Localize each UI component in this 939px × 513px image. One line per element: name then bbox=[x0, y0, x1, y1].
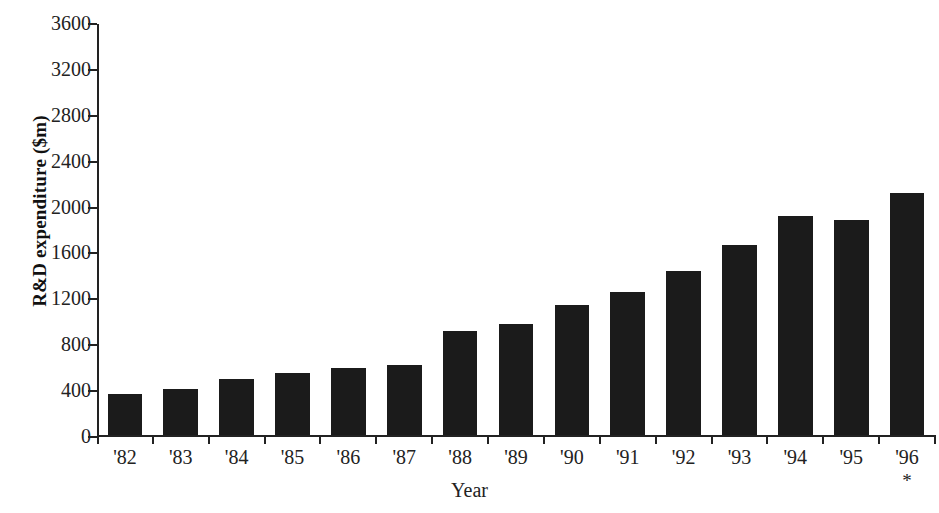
x-tick-label: '89 bbox=[488, 446, 544, 469]
y-tick-label: 2400 bbox=[51, 150, 91, 173]
x-tick-label: '94 bbox=[767, 446, 823, 469]
bar-slot bbox=[610, 24, 645, 435]
bar[interactable] bbox=[163, 389, 198, 435]
y-tick-label: 1200 bbox=[51, 287, 91, 310]
x-tick-label: '93 bbox=[712, 446, 768, 469]
y-tick-label: 3200 bbox=[51, 58, 91, 81]
x-tick-label: '84 bbox=[209, 446, 265, 469]
y-tick-label: 0 bbox=[81, 425, 91, 448]
x-tick-mark bbox=[599, 435, 601, 444]
x-tick-mark bbox=[319, 435, 321, 444]
x-tick-mark bbox=[711, 435, 713, 444]
x-tick-mark bbox=[487, 435, 489, 444]
x-tick-label: '85 bbox=[265, 446, 321, 469]
bar[interactable] bbox=[555, 305, 590, 435]
bar[interactable] bbox=[890, 193, 925, 435]
bar[interactable] bbox=[834, 220, 869, 435]
bar-slot bbox=[499, 24, 534, 435]
bar[interactable] bbox=[219, 379, 254, 436]
chart-figure: R&D expenditure ($m) 0400800120016002000… bbox=[0, 0, 939, 513]
bar[interactable] bbox=[387, 365, 422, 435]
x-tick-mark bbox=[97, 435, 99, 444]
bar[interactable] bbox=[666, 271, 701, 435]
bar[interactable] bbox=[610, 292, 645, 435]
y-tick-label: 3600 bbox=[51, 12, 91, 35]
y-tick-label: 1600 bbox=[51, 241, 91, 264]
x-tick-mark bbox=[208, 435, 210, 444]
x-tick-mark bbox=[766, 435, 768, 444]
plot-area: 04008001200160020002400280032003600 bbox=[97, 24, 935, 437]
bar[interactable] bbox=[275, 373, 310, 435]
bar-slot bbox=[443, 24, 478, 435]
bar-slot bbox=[834, 24, 869, 435]
x-tick-label: '83 bbox=[153, 446, 209, 469]
x-tick-mark bbox=[152, 435, 154, 444]
x-tick-mark bbox=[934, 435, 936, 444]
x-tick-label: '92 bbox=[656, 446, 712, 469]
bar[interactable] bbox=[331, 368, 366, 435]
x-tick-label: '91 bbox=[600, 446, 656, 469]
x-tick-label: '82 bbox=[97, 446, 153, 469]
bar-group bbox=[97, 24, 935, 435]
x-tick-mark bbox=[375, 435, 377, 444]
x-tick-mark bbox=[543, 435, 545, 444]
y-tick-label: 2000 bbox=[51, 196, 91, 219]
y-tick-label: 400 bbox=[61, 379, 91, 402]
bar[interactable] bbox=[443, 331, 478, 435]
x-tick-label: '90 bbox=[544, 446, 600, 469]
bar-slot bbox=[331, 24, 366, 435]
x-axis-title: Year bbox=[0, 479, 939, 502]
bar-slot bbox=[219, 24, 254, 435]
bar-slot bbox=[275, 24, 310, 435]
y-axis-title: R&D expenditure ($m) bbox=[29, 71, 51, 351]
x-tick-label: '86 bbox=[320, 446, 376, 469]
x-tick-label: '95 bbox=[823, 446, 879, 469]
bar-slot bbox=[555, 24, 590, 435]
y-tick-label: 2800 bbox=[51, 104, 91, 127]
x-axis-line bbox=[97, 435, 935, 437]
x-tick-label: '88 bbox=[432, 446, 488, 469]
y-tick-label: 800 bbox=[61, 333, 91, 356]
bar[interactable] bbox=[108, 394, 143, 435]
bar-slot bbox=[890, 24, 925, 435]
bar[interactable] bbox=[722, 245, 757, 435]
x-tick-mark bbox=[264, 435, 266, 444]
x-tick-label: '87 bbox=[376, 446, 432, 469]
x-tick-mark bbox=[431, 435, 433, 444]
bar-slot bbox=[722, 24, 757, 435]
x-tick-mark bbox=[822, 435, 824, 444]
x-tick-mark bbox=[655, 435, 657, 444]
bar[interactable] bbox=[778, 216, 813, 435]
bar-slot bbox=[163, 24, 198, 435]
bar[interactable] bbox=[499, 324, 534, 435]
x-tick-mark bbox=[878, 435, 880, 444]
bar-slot bbox=[387, 24, 422, 435]
bar-slot bbox=[108, 24, 143, 435]
bar-slot bbox=[666, 24, 701, 435]
bar-slot bbox=[778, 24, 813, 435]
